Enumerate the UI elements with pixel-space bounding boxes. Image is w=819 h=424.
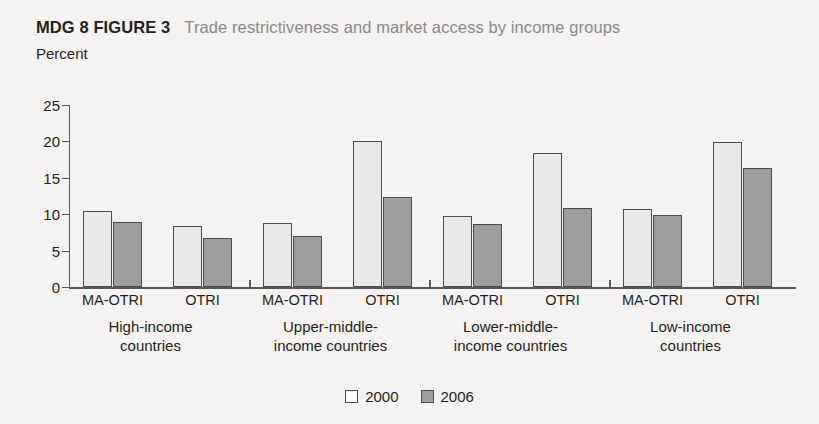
legend-item: 2006 [421, 388, 474, 405]
x-axis-measure-label: OTRI [159, 292, 246, 308]
y-axis-tick-label: 5 [8, 242, 60, 259]
legend-label: 2006 [441, 388, 474, 405]
legend-swatch-2000 [345, 390, 358, 403]
bar-2006 [653, 215, 682, 287]
group-label-line-2: countries [63, 336, 238, 355]
group-label-line-2: countries [603, 336, 778, 355]
legend-label: 2000 [365, 388, 398, 405]
group-label-line-2: income countries [423, 336, 598, 355]
figure-tag: MDG 8 FIGURE 3 [36, 18, 170, 37]
y-axis-tick-label: 25 [8, 97, 60, 114]
legend-item: 2000 [345, 388, 398, 405]
bar-groups [69, 105, 796, 287]
group-label-line-1: Low-income [603, 317, 778, 336]
x-axis-measure-label: MA-OTRI [249, 292, 336, 308]
x-axis-group-label: Low-incomecountries [603, 317, 778, 355]
figure-title: Trade restrictiveness and market access … [184, 18, 620, 37]
figure-header: MDG 8 FIGURE 3 Trade restrictiveness and… [36, 18, 620, 37]
bar-2006 [383, 197, 412, 287]
bar-pair [83, 105, 142, 287]
x-axis-group-separator-tick [249, 280, 251, 287]
group-label-line-1: Upper-middle- [243, 317, 418, 336]
x-axis-measure-label: MA-OTRI [429, 292, 516, 308]
bar-2006 [563, 208, 592, 287]
y-axis-tick [62, 141, 69, 142]
x-axis-group-label: Lower-middle-income countries [423, 317, 598, 355]
y-axis-tick-label: 20 [8, 133, 60, 150]
group-label-line-2: income countries [243, 336, 418, 355]
legend-swatch-2006 [421, 390, 434, 403]
bar-2000 [173, 226, 202, 287]
x-axis-measure-label: MA-OTRI [609, 292, 696, 308]
bar-pair [623, 105, 682, 287]
bar-2000 [263, 223, 292, 287]
bar-2006 [293, 236, 322, 287]
x-axis-line [69, 287, 796, 289]
group-label-line-1: Lower-middle- [423, 317, 598, 336]
bar-2000 [443, 216, 472, 287]
chart-legend: 20002006 [0, 388, 819, 405]
x-axis-labels: MA-OTRIOTRIHigh-incomecountriesMA-OTRIOT… [69, 292, 796, 382]
bar-2006 [473, 224, 502, 287]
x-axis-measure-label: OTRI [699, 292, 786, 308]
y-axis-tick-label: 15 [8, 169, 60, 186]
group-label-line-1: High-income [63, 317, 238, 336]
bar-2000 [623, 209, 652, 287]
x-axis-measure-label: OTRI [339, 292, 426, 308]
x-axis-group-separator-tick [609, 280, 611, 287]
bar-2000 [713, 142, 742, 287]
bar-pair [533, 105, 592, 287]
plot-area [69, 105, 796, 287]
x-axis-measure-label: OTRI [519, 292, 606, 308]
y-axis-tick [62, 287, 69, 288]
y-axis-tick-labels: 0510152025 [0, 105, 60, 287]
y-axis-tick [62, 178, 69, 179]
x-axis-measure-label: MA-OTRI [69, 292, 156, 308]
bar-2006 [743, 168, 772, 287]
x-axis-group-label: Upper-middle-income countries [243, 317, 418, 355]
bar-pair [713, 105, 772, 287]
bar-pair [353, 105, 412, 287]
bar-2006 [203, 238, 232, 287]
x-axis-group-separator-tick [429, 280, 431, 287]
bar-pair [173, 105, 232, 287]
bar-pair [263, 105, 322, 287]
y-axis-tick [62, 105, 69, 106]
bar-2000 [353, 141, 382, 287]
bar-2000 [83, 211, 112, 287]
y-axis-tick [62, 251, 69, 252]
y-axis-unit-label: Percent [36, 45, 88, 62]
bar-pair [443, 105, 502, 287]
x-axis-group-label: High-incomecountries [63, 317, 238, 355]
bar-2006 [113, 222, 142, 287]
bar-2000 [533, 153, 562, 287]
y-axis-tick-label: 10 [8, 206, 60, 223]
y-axis-tick-label: 0 [8, 279, 60, 296]
y-axis-tick [62, 214, 69, 215]
